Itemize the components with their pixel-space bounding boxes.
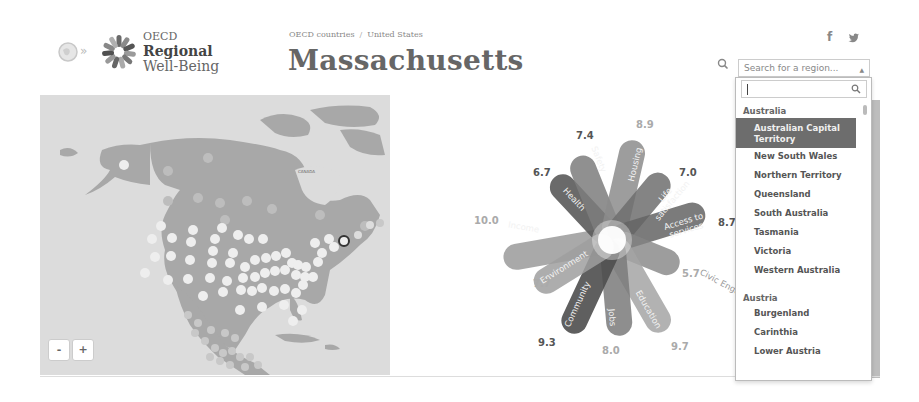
- region-option-lower-austria[interactable]: Lower Austria: [736, 343, 864, 362]
- region-option-carinthia[interactable]: Carinthia: [736, 324, 864, 343]
- value-safety: 7.4: [576, 130, 594, 141]
- value-jobs: 8.0: [602, 345, 620, 356]
- logo-regional: Regional: [143, 44, 219, 59]
- breadcrumb-united-states[interactable]: United States: [367, 30, 423, 39]
- map-zoom-in-button[interactable]: +: [72, 339, 94, 361]
- region-select-placeholder: Search for a region...: [744, 63, 838, 73]
- caret-up-icon: ▲: [859, 66, 864, 73]
- value-environment: 7.7: [533, 278, 551, 289]
- breadcrumb: OECD countries/United States: [289, 30, 423, 39]
- group-austria: Austria: [736, 289, 864, 305]
- region-option-south-australia[interactable]: South Australia: [736, 205, 864, 224]
- breadcrumb-oecd-countries[interactable]: OECD countries: [289, 30, 355, 39]
- region-option-victoria[interactable]: Victoria: [736, 243, 864, 262]
- value-access-to-services: 8.7: [718, 217, 736, 228]
- massachusetts-marker[interactable]: [339, 236, 349, 246]
- page-scrollbar[interactable]: [872, 100, 880, 378]
- oecd-globe-icon[interactable]: [57, 41, 79, 63]
- group-australia: Australia: [736, 102, 864, 118]
- oecd-chevrons: »: [80, 44, 84, 58]
- facebook-icon[interactable]: f: [827, 30, 832, 44]
- region-list: Australia Australian Capital Territory N…: [736, 102, 864, 380]
- logo-text[interactable]: OECD Regional Well-Being: [143, 29, 219, 74]
- region-option-tasmania[interactable]: Tasmania: [736, 224, 864, 243]
- region-dropdown-search-input[interactable]: [741, 80, 867, 98]
- value-civic-engagement: 5.7: [682, 268, 700, 279]
- region-option-australian-capital-territory[interactable]: Australian Capital Territory: [736, 118, 856, 148]
- breadcrumb-separator: /: [360, 30, 363, 39]
- region-dropdown: Australia Australian Capital Territory N…: [735, 77, 872, 381]
- region-option-burgenland[interactable]: Burgenland: [736, 305, 864, 324]
- value-health: 6.7: [533, 167, 551, 178]
- value-housing: 8.9: [636, 119, 654, 130]
- search-icon: [851, 84, 861, 94]
- text-cursor: [747, 84, 748, 95]
- value-income: 10.0: [474, 215, 499, 226]
- region-option-queensland[interactable]: Queensland: [736, 186, 864, 205]
- value-education: 9.7: [671, 341, 689, 352]
- page-title: Massachusetts: [288, 44, 524, 77]
- map-canvas[interactable]: CANADA: [40, 95, 390, 375]
- twitter-icon[interactable]: [848, 32, 860, 44]
- logo-oecd: OECD: [143, 29, 219, 44]
- map-label-canada: CANADA: [298, 169, 315, 174]
- map-zoom-out-button[interactable]: -: [48, 339, 70, 361]
- region-search-select[interactable]: Search for a region... ▲: [738, 59, 870, 77]
- region-option-western-australia[interactable]: Western Australia: [736, 262, 864, 281]
- region-option-northern-territory[interactable]: Northern Territory: [736, 167, 864, 186]
- search-icon[interactable]: [717, 58, 729, 70]
- region-option-new-south-wales[interactable]: New South Wales: [736, 148, 864, 167]
- map[interactable]: CANADA: [40, 95, 390, 375]
- regional-wellbeing-flower-logo[interactable]: [100, 33, 138, 71]
- logo-wellbeing: Well-Being: [143, 59, 219, 74]
- group-gap: [736, 281, 864, 289]
- value-life-satisfaction: 7.0: [679, 167, 697, 178]
- petal-label-jobs[interactable]: Jobs: [607, 308, 617, 326]
- value-community: 9.3: [538, 337, 556, 348]
